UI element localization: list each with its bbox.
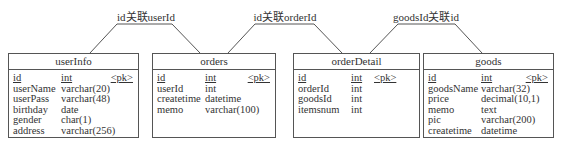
field-type: datetime [481, 126, 517, 137]
field-name: itemsnum [298, 105, 351, 116]
entity-title: orders [153, 54, 275, 70]
field-name: createtime [428, 126, 481, 137]
pk-marker: <pk> [526, 72, 548, 83]
entity-title: orderDetail [294, 54, 419, 70]
field-row: addressvarchar(256) [13, 126, 134, 137]
pk-marker: <pk> [111, 72, 133, 83]
field-row: idint [298, 73, 415, 84]
entity-title: goods [424, 54, 553, 70]
field-type: varchar(256) [61, 126, 115, 137]
entity-orders[interactable]: orders <pk> idint userIdint createtimeda… [152, 53, 276, 138]
pk-marker: <pk> [248, 72, 270, 83]
field-row: memovarchar(100) [157, 105, 271, 116]
field-type: int [351, 73, 362, 84]
field-row: itemsnumint [298, 105, 415, 116]
pk-marker: <pk> [374, 72, 396, 83]
relation-label-userinfo-orders: id关联userId [117, 8, 175, 24]
field-type: int [481, 73, 492, 84]
field-row: createtimedatetime [428, 126, 549, 137]
relation-line-orders-orderdetail [228, 24, 342, 53]
relation-line-userinfo-orders [90, 24, 200, 53]
field-name: id [13, 73, 61, 84]
relation-label-orderdetail-goods: goodsId关联id [393, 8, 459, 24]
entity-goods[interactable]: goods <pk> idint goodsNamevarchar(32) pr… [423, 53, 554, 138]
entity-userinfo[interactable]: userInfo <pk> idint userNamevarchar(20) … [8, 53, 139, 138]
field-type: varchar(100) [205, 105, 259, 116]
field-type: int [61, 73, 72, 84]
entity-title: userInfo [9, 54, 138, 70]
field-name: id [428, 73, 481, 84]
field-name: address [13, 126, 61, 137]
entity-orderdetail[interactable]: orderDetail <pk> idint orderIdint goodsI… [293, 53, 420, 138]
field-type: int [205, 73, 216, 84]
field-type: int [351, 105, 362, 116]
field-name: id [157, 73, 205, 84]
relation-line-orderdetail-goods [370, 24, 482, 53]
relation-label-orders-orderdetail: id关联orderId [254, 8, 317, 24]
field-name: id [298, 73, 351, 84]
field-name: memo [157, 105, 205, 116]
